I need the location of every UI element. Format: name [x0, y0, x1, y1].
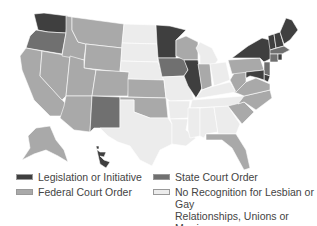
state-CT [270, 54, 278, 62]
legend-swatch-legislation [16, 174, 33, 180]
state-ME [280, 18, 298, 44]
state-WY [84, 44, 122, 72]
state-CO [92, 70, 130, 96]
state-MS [188, 108, 200, 138]
legend-swatch-state-court [153, 174, 170, 180]
state-HI [96, 146, 110, 168]
state-NM [90, 96, 120, 132]
state-IA [158, 58, 188, 77]
state-WI [176, 36, 198, 60]
legend-item-no-recognition: No Recognition for Lesbian or Gay Relati… [153, 186, 316, 226]
legend-swatch-no-recognition [153, 189, 170, 195]
state-NJ [264, 62, 270, 76]
legend-label-state-court: State Court Order [175, 171, 258, 183]
legend-item-federal-court: Federal Court Order [16, 186, 132, 198]
legend-swatch-federal-court [16, 189, 33, 195]
legend-label-no-recognition: No Recognition for Lesbian or Gay Relati… [175, 186, 316, 226]
legend-item-state-court: State Court Order [153, 171, 258, 183]
legend-label-federal-court: Federal Court Order [38, 186, 132, 198]
state-KS [128, 79, 166, 98]
us-map [0, 0, 317, 170]
state-AR [168, 101, 190, 119]
state-RI [278, 54, 282, 60]
legend-label-legislation: Legislation or Initiative [38, 171, 142, 183]
state-WA [34, 13, 68, 33]
state-SD [121, 43, 158, 62]
state-AZ [60, 96, 92, 132]
legend-item-legislation: Legislation or Initiative [16, 171, 142, 183]
legend-label-no-recognition-line1: No Recognition for Lesbian or Gay [175, 186, 314, 210]
state-OH [210, 62, 230, 86]
state-AK [22, 126, 68, 162]
legend-label-no-recognition-line2: Relationships, Unions or Marriages [175, 210, 289, 226]
state-FL [206, 134, 250, 170]
state-ND [122, 24, 157, 44]
